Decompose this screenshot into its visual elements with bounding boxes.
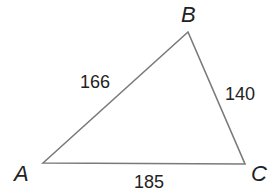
side-label-ac: 185 <box>134 172 164 192</box>
side-label-bc: 140 <box>225 84 255 104</box>
triangle-diagram: A B C 166 140 185 <box>0 0 276 193</box>
vertex-label-a: A <box>12 161 29 186</box>
side-label-ab: 166 <box>80 72 110 92</box>
vertex-label-b: B <box>181 2 196 27</box>
vertex-label-c: C <box>251 161 267 186</box>
triangle-abc <box>43 32 245 164</box>
